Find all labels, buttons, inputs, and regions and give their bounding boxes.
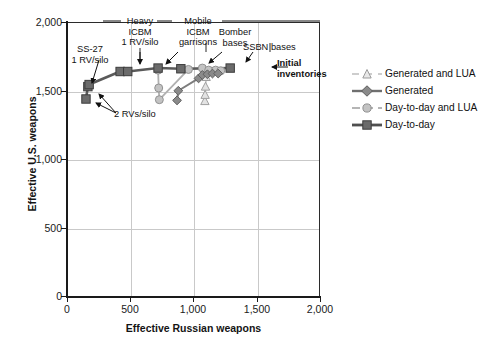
annotation-heavy-icbm: Heavy ICBM 1 RV/silo bbox=[110, 16, 170, 48]
y-axis-title: Effective U.S. weapons bbox=[26, 39, 38, 269]
chart-figure: 2,000 1,500 1,000 500 0 0 500 1,000 1,50… bbox=[0, 0, 490, 341]
legend-item-day-to-day[interactable]: Day-to-day bbox=[352, 117, 488, 132]
gridline-y-500 bbox=[68, 229, 319, 230]
x-tick-label-1500: 1,500 bbox=[227, 303, 287, 315]
circle-icon bbox=[352, 101, 382, 115]
y-tick-label-0: 0 bbox=[18, 290, 62, 302]
legend-label-generated-and-lua: Generated and LUA bbox=[385, 68, 476, 79]
triangle-icon bbox=[352, 67, 382, 81]
annotation-2-rvs-silo: 2 RVs/silo bbox=[114, 109, 184, 120]
chart-legend: Generated and LUA Generated Day-to-day a… bbox=[352, 66, 488, 134]
x-tick-label-500: 500 bbox=[100, 303, 160, 315]
x-tick-2000 bbox=[320, 297, 321, 302]
x-tick-label-0: 0 bbox=[37, 303, 97, 315]
legend-item-day-to-day-and-lua[interactable]: Day-to-day and LUA bbox=[352, 100, 488, 115]
legend-item-generated-and-lua[interactable]: Generated and LUA bbox=[352, 66, 488, 81]
legend-label-day-to-day: Day-to-day bbox=[385, 119, 435, 130]
gridline-y-1000 bbox=[68, 160, 319, 161]
diamond-icon bbox=[352, 84, 382, 98]
legend-label-day-to-day-and-lua: Day-to-day and LUA bbox=[385, 102, 477, 113]
legend-label-generated: Generated bbox=[385, 85, 433, 96]
x-tick-0 bbox=[67, 297, 68, 302]
square-icon bbox=[352, 118, 382, 132]
annotation-ssbn-bases: SSBN bases bbox=[243, 42, 313, 53]
legend-item-generated[interactable]: Generated bbox=[352, 83, 488, 98]
x-axis-title: Effective Russian weapons bbox=[67, 322, 320, 334]
x-tick-label-2000: 2,000 bbox=[290, 303, 350, 315]
x-tick-label-1000: 1,000 bbox=[163, 303, 223, 315]
y-tick-label-1500: 1,500 bbox=[18, 85, 62, 97]
gridline-y-1500 bbox=[68, 92, 319, 93]
annotation-initial-inventories: Initial inventories bbox=[277, 58, 335, 79]
x-tick-500 bbox=[130, 297, 131, 302]
y-tick-label-1000: 1,000 bbox=[18, 153, 62, 165]
y-tick-label-500: 500 bbox=[18, 222, 62, 234]
x-tick-1500 bbox=[257, 297, 258, 302]
x-tick-1000 bbox=[193, 297, 194, 302]
y-tick-label-2000: 2,000 bbox=[18, 16, 62, 28]
